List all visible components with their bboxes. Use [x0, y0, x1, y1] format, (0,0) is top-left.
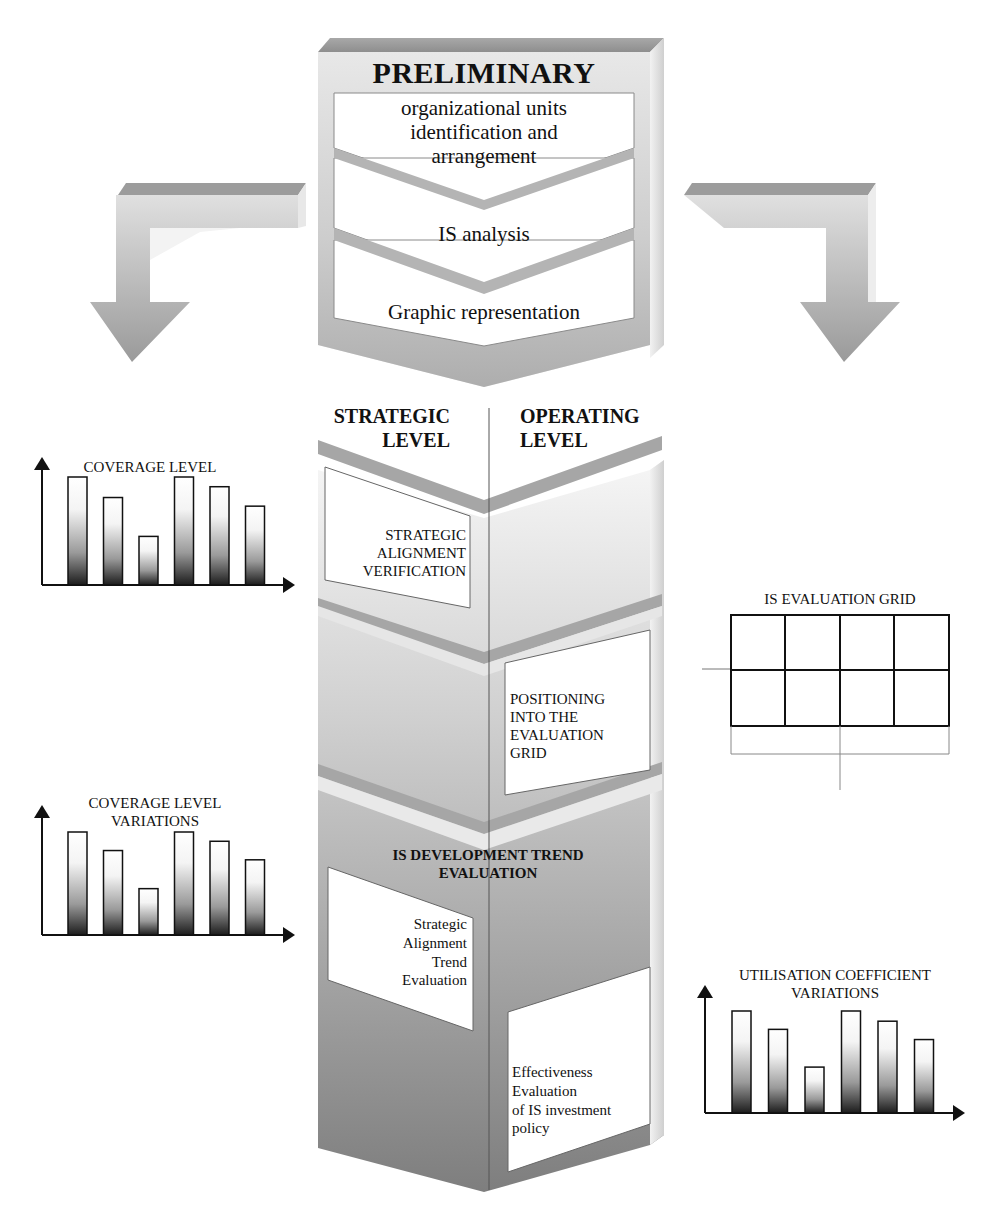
strategic-alignment-verification-box: STRATEGIC ALIGNMENT VERIFICATION: [330, 526, 466, 580]
positioning-evaluation-grid-box: POSITIONING INTO THE EVALUATION GRID: [510, 690, 646, 762]
effectiveness-evaluation-box: Effectiveness Evaluation of IS investmen…: [512, 1063, 648, 1138]
chart-bar: [68, 477, 87, 585]
chart-bar: [175, 832, 194, 935]
eff-line-3: of IS investment: [512, 1101, 648, 1120]
sav-line-3: VERIFICATION: [330, 562, 466, 580]
chart-bar: [769, 1029, 788, 1113]
chart-bar: [104, 851, 123, 935]
sav-line-2: ALIGNMENT: [330, 544, 466, 562]
is-evaluation-grid-title: IS EVALUATION GRID: [731, 590, 949, 608]
pos-line-3: EVALUATION: [510, 726, 646, 744]
left-bent-arrow-icon: [90, 183, 306, 362]
sat-line-3: Trend: [334, 953, 467, 972]
diagram-canvas: PRELIMINARY organizational units identif…: [0, 0, 986, 1205]
pos-line-2: INTO THE: [510, 708, 646, 726]
sat-line-2: Alignment: [334, 934, 467, 953]
strategic-level-line-2: LEVEL: [318, 428, 450, 452]
right-bent-arrow-icon: [684, 183, 900, 362]
sat-line-4: Evaluation: [334, 971, 467, 990]
is-evaluation-grid: [702, 615, 949, 790]
operating-level-line-1: OPERATING: [520, 404, 660, 428]
trend-title-line-2: EVALUATION: [318, 864, 658, 882]
operating-level-heading: OPERATING LEVEL: [520, 404, 660, 452]
chart-bar: [68, 832, 87, 935]
chart-bar: [878, 1021, 897, 1113]
coverage-level-chart-title: COVERAGE LEVEL: [60, 458, 240, 476]
chart-bar: [139, 889, 158, 935]
preliminary-step-2: IS analysis: [334, 222, 634, 246]
strategic-level-line-1: STRATEGIC: [318, 404, 450, 428]
coverage-level-variations-chart-title: COVERAGE LEVEL VARIATIONS: [70, 794, 240, 830]
chart-bar: [139, 536, 158, 585]
sat-line-1: Strategic: [334, 915, 467, 934]
step-1-line-2: identification and: [334, 120, 634, 144]
chart-bar: [246, 860, 265, 935]
chart-bar: [210, 487, 229, 585]
step-1-line-1: organizational units: [334, 96, 634, 120]
step-1-line-3: arrangement: [334, 144, 634, 168]
chart-bar: [842, 1011, 861, 1113]
coverage-level-chart: [34, 457, 295, 593]
chart-bar: [104, 498, 123, 585]
eff-line-4: policy: [512, 1119, 648, 1138]
chart-bar: [246, 506, 265, 585]
preliminary-step-3: Graphic representation: [334, 300, 634, 324]
chart-bar: [210, 841, 229, 935]
pos-line-4: GRID: [510, 744, 646, 762]
trend-title-line-1: IS DEVELOPMENT TREND: [318, 846, 658, 864]
operating-level-line-2: LEVEL: [520, 428, 660, 452]
chart-bar: [805, 1067, 824, 1113]
pos-line-1: POSITIONING: [510, 690, 646, 708]
eff-line-2: Evaluation: [512, 1082, 648, 1101]
is-development-trend-title: IS DEVELOPMENT TREND EVALUATION: [318, 846, 658, 882]
eff-line-1: Effectiveness: [512, 1063, 648, 1082]
utilisation-coefficient-chart-title: UTILISATION COEFFICIENT VARIATIONS: [715, 966, 955, 1002]
strategic-level-heading: STRATEGIC LEVEL: [318, 404, 450, 452]
strategic-alignment-trend-box: Strategic Alignment Trend Evaluation: [334, 915, 467, 990]
chart-bar: [175, 477, 194, 585]
chart-bar: [915, 1040, 934, 1113]
chart-bar: [732, 1011, 751, 1113]
utilisation-coefficient-chart: [697, 985, 965, 1121]
preliminary-step-1: organizational units identification and …: [334, 96, 634, 168]
sav-line-1: STRATEGIC: [330, 526, 466, 544]
preliminary-title: PRELIMINARY: [318, 56, 650, 91]
